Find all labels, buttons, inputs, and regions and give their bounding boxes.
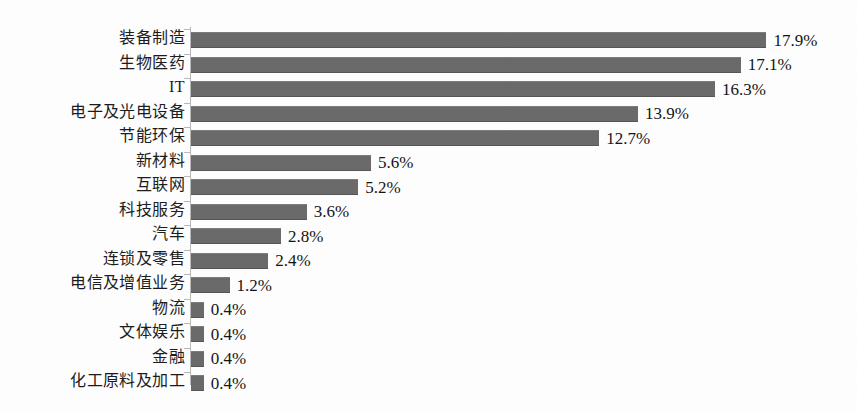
bar-row: 电子及光电设备13.9%: [0, 103, 857, 128]
bar-value-label: 1.2%: [237, 277, 272, 294]
bar-value-label: 3.6%: [314, 203, 349, 220]
category-label: 新材料: [136, 151, 185, 171]
bar-row: 文体娱乐0.4%: [0, 323, 857, 348]
bar-row: 物流0.4%: [0, 299, 857, 324]
category-label: 科技服务: [119, 200, 185, 220]
bar-value-label: 0.4%: [211, 350, 246, 367]
category-label: 生物医药: [119, 53, 185, 73]
bar[interactable]: [191, 375, 204, 391]
category-label: IT: [169, 77, 185, 97]
bar-value-label: 13.9%: [645, 105, 689, 122]
bar-and-value: 0.4%: [191, 375, 246, 391]
bar-value-label: 16.3%: [722, 81, 766, 98]
category-label: 节能环保: [119, 126, 185, 146]
category-label: 文体娱乐: [119, 322, 185, 342]
bar-value-label: 0.4%: [211, 301, 246, 318]
bar-row: 新材料5.6%: [0, 152, 857, 177]
category-label: 汽车: [152, 224, 185, 244]
bar[interactable]: [191, 204, 307, 220]
bar[interactable]: [191, 32, 766, 48]
category-label: 物流: [152, 298, 185, 318]
bar-chart: 装备制造17.9%生物医药17.1%IT16.3%电子及光电设备13.9%节能环…: [0, 0, 857, 412]
bar-value-label: 0.4%: [211, 326, 246, 343]
bar[interactable]: [191, 351, 204, 367]
bar-and-value: 17.9%: [191, 32, 817, 48]
bar-row: 节能环保12.7%: [0, 127, 857, 152]
bar-row: 连锁及零售2.4%: [0, 250, 857, 275]
category-label: 化工原料及加工: [70, 371, 185, 391]
bar-and-value: 13.9%: [191, 106, 689, 122]
bar-and-value: 0.4%: [191, 351, 246, 367]
bar-value-label: 5.6%: [378, 154, 413, 171]
bar-row: 科技服务3.6%: [0, 201, 857, 226]
plot-area: 装备制造17.9%生物医药17.1%IT16.3%电子及光电设备13.9%节能环…: [0, 0, 857, 412]
bar[interactable]: [191, 57, 741, 73]
category-label: 连锁及零售: [103, 249, 185, 269]
bar-row: 装备制造17.9%: [0, 29, 857, 54]
bar-and-value: 0.4%: [191, 326, 246, 342]
bar[interactable]: [191, 155, 371, 171]
bar-and-value: 16.3%: [191, 81, 766, 97]
bar-value-label: 17.9%: [773, 32, 817, 49]
bar-value-label: 2.4%: [275, 252, 310, 269]
bar-row: IT16.3%: [0, 78, 857, 103]
bar-value-label: 17.1%: [748, 56, 792, 73]
category-label: 装备制造: [119, 28, 185, 48]
bar-row-list: 装备制造17.9%生物医药17.1%IT16.3%电子及光电设备13.9%节能环…: [0, 29, 857, 397]
bar-and-value: 5.6%: [191, 155, 413, 171]
bar[interactable]: [191, 130, 599, 146]
bar-row: 化工原料及加工0.4%: [0, 372, 857, 397]
bar-and-value: 1.2%: [191, 277, 272, 293]
category-label: 电子及光电设备: [70, 102, 185, 122]
bar-and-value: 0.4%: [191, 302, 246, 318]
bar-value-label: 12.7%: [606, 130, 650, 147]
bar-value-label: 0.4%: [211, 375, 246, 392]
bar-row: 电信及增值业务1.2%: [0, 274, 857, 299]
category-label: 金融: [152, 347, 185, 367]
bar-row: 互联网5.2%: [0, 176, 857, 201]
bar-row: 金融0.4%: [0, 348, 857, 373]
category-label: 电信及增值业务: [70, 273, 185, 293]
bar-and-value: 2.4%: [191, 253, 311, 269]
bar-row: 汽车2.8%: [0, 225, 857, 250]
bar-and-value: 5.2%: [191, 179, 401, 195]
category-label: 互联网: [136, 175, 185, 195]
bar-and-value: 17.1%: [191, 57, 792, 73]
bar[interactable]: [191, 179, 358, 195]
bar[interactable]: [191, 253, 268, 269]
bar[interactable]: [191, 106, 638, 122]
bar-value-label: 2.8%: [288, 228, 323, 245]
bar[interactable]: [191, 277, 230, 293]
bar-value-label: 5.2%: [365, 179, 400, 196]
bar[interactable]: [191, 81, 715, 97]
bar-and-value: 3.6%: [191, 204, 349, 220]
bar-row: 生物医药17.1%: [0, 54, 857, 79]
bar-and-value: 12.7%: [191, 130, 650, 146]
bar-and-value: 2.8%: [191, 228, 323, 244]
bar[interactable]: [191, 302, 204, 318]
bar[interactable]: [191, 326, 204, 342]
bar[interactable]: [191, 228, 281, 244]
